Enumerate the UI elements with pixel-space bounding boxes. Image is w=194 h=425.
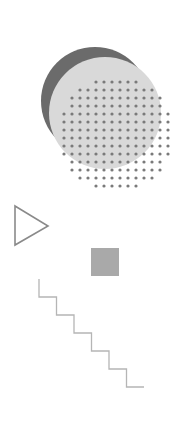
abstract-geometric-illustration <box>0 0 194 425</box>
outline-triangle-shape <box>15 206 48 245</box>
grey-square-shape <box>91 248 119 276</box>
staircase-line-shape <box>39 279 144 387</box>
